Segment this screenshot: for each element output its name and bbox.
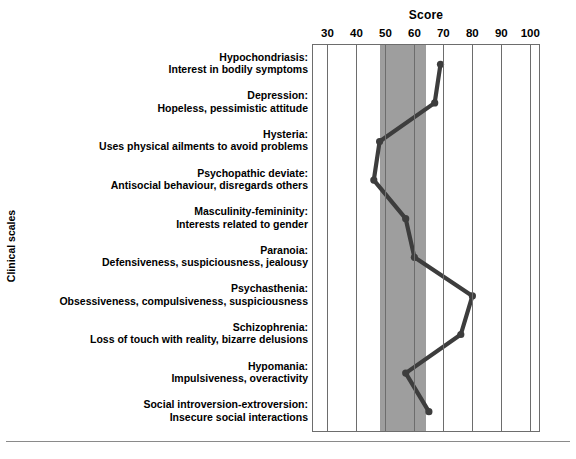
gridline-90 xyxy=(501,45,502,431)
x-tick-30: 30 xyxy=(321,27,334,39)
scale-name: Hypomania: xyxy=(24,360,308,373)
data-point-9 xyxy=(425,408,432,415)
scale-description: Interests related to gender xyxy=(24,218,308,231)
gridline-50 xyxy=(385,45,386,431)
scale-name: Psychopathic deviate: xyxy=(24,167,308,180)
x-tick-80: 80 xyxy=(466,27,479,39)
y-axis-title: Clinical scales xyxy=(2,185,20,305)
plot-area xyxy=(312,44,540,432)
profile-polyline xyxy=(374,64,473,411)
scale-description: Obsessiveness, compulsiveness, suspiciou… xyxy=(24,295,308,308)
scale-description: Antisocial behaviour, disregards others xyxy=(24,179,308,192)
data-point-2 xyxy=(376,138,383,145)
gridline-70 xyxy=(443,45,444,431)
scale-label-4: Masculinity-femininity:Interests related… xyxy=(24,205,308,230)
y-axis-title-text: Clinical scales xyxy=(5,186,17,306)
x-tick-100: 100 xyxy=(521,27,540,39)
data-point-1 xyxy=(431,99,438,106)
scale-name: Masculinity-femininity: xyxy=(24,205,308,218)
scale-label-5: Paranoia:Defensiveness, suspiciousness, … xyxy=(24,244,308,269)
scale-label-6: Psychasthenia:Obsessiveness, compulsiven… xyxy=(24,282,308,307)
data-point-8 xyxy=(402,370,409,377)
scale-name: Social introversion-extroversion: xyxy=(24,398,308,411)
gridline-80 xyxy=(472,45,473,431)
x-tick-50: 50 xyxy=(379,27,392,39)
plot-inner xyxy=(313,45,539,431)
scale-description: Defensiveness, suspiciousness, jealousy xyxy=(24,256,308,269)
scale-label-8: Hypomania:Impulsiveness, overactivity xyxy=(24,360,308,385)
scale-label-7: Schizophrenia:Loss of touch with reality… xyxy=(24,321,308,346)
scale-name: Hysteria: xyxy=(24,128,308,141)
x-tick-90: 90 xyxy=(495,27,508,39)
gridline-30 xyxy=(327,45,328,431)
x-axis-tick-labels: 30405060708090100 xyxy=(0,27,576,42)
scale-description: Insecure social interactions xyxy=(24,411,308,424)
scale-label-2: Hysteria:Uses physical ailments to avoid… xyxy=(24,128,308,153)
scale-description: Impulsiveness, overactivity xyxy=(24,372,308,385)
scale-label-0: Hypochondriasis:Interest in bodily sympt… xyxy=(24,51,308,76)
scale-name: Hypochondriasis: xyxy=(24,51,308,64)
gridline-100 xyxy=(530,45,531,431)
mmpi-profile-chart: Score 30405060708090100 Clinical scales … xyxy=(0,0,576,459)
clinical-scale-labels: Hypochondriasis:Interest in bodily sympt… xyxy=(24,44,308,432)
data-point-3 xyxy=(370,177,377,184)
scale-description: Loss of touch with reality, bizarre delu… xyxy=(24,333,308,346)
chart-title: Score xyxy=(312,8,540,22)
scale-label-3: Psychopathic deviate:Antisocial behaviou… xyxy=(24,167,308,192)
scale-name: Paranoia: xyxy=(24,244,308,257)
x-tick-70: 70 xyxy=(437,27,450,39)
gridline-60 xyxy=(414,45,415,431)
scale-name: Depression: xyxy=(24,89,308,102)
scale-description: Uses physical ailments to avoid problems xyxy=(24,140,308,153)
scale-label-9: Social introversion-extroversion:Insecur… xyxy=(24,398,308,423)
data-point-4 xyxy=(402,215,409,222)
x-tick-40: 40 xyxy=(350,27,363,39)
x-tick-60: 60 xyxy=(408,27,421,39)
data-point-7 xyxy=(457,331,464,338)
profile-line-series xyxy=(313,45,539,431)
scale-name: Psychasthenia: xyxy=(24,282,308,295)
scale-label-1: Depression:Hopeless, pessimistic attitud… xyxy=(24,89,308,114)
gridline-40 xyxy=(356,45,357,431)
scale-description: Hopeless, pessimistic attitude xyxy=(24,102,308,115)
scale-description: Interest in bodily symptoms xyxy=(24,63,308,76)
footer-divider xyxy=(6,441,570,442)
scale-name: Schizophrenia: xyxy=(24,321,308,334)
